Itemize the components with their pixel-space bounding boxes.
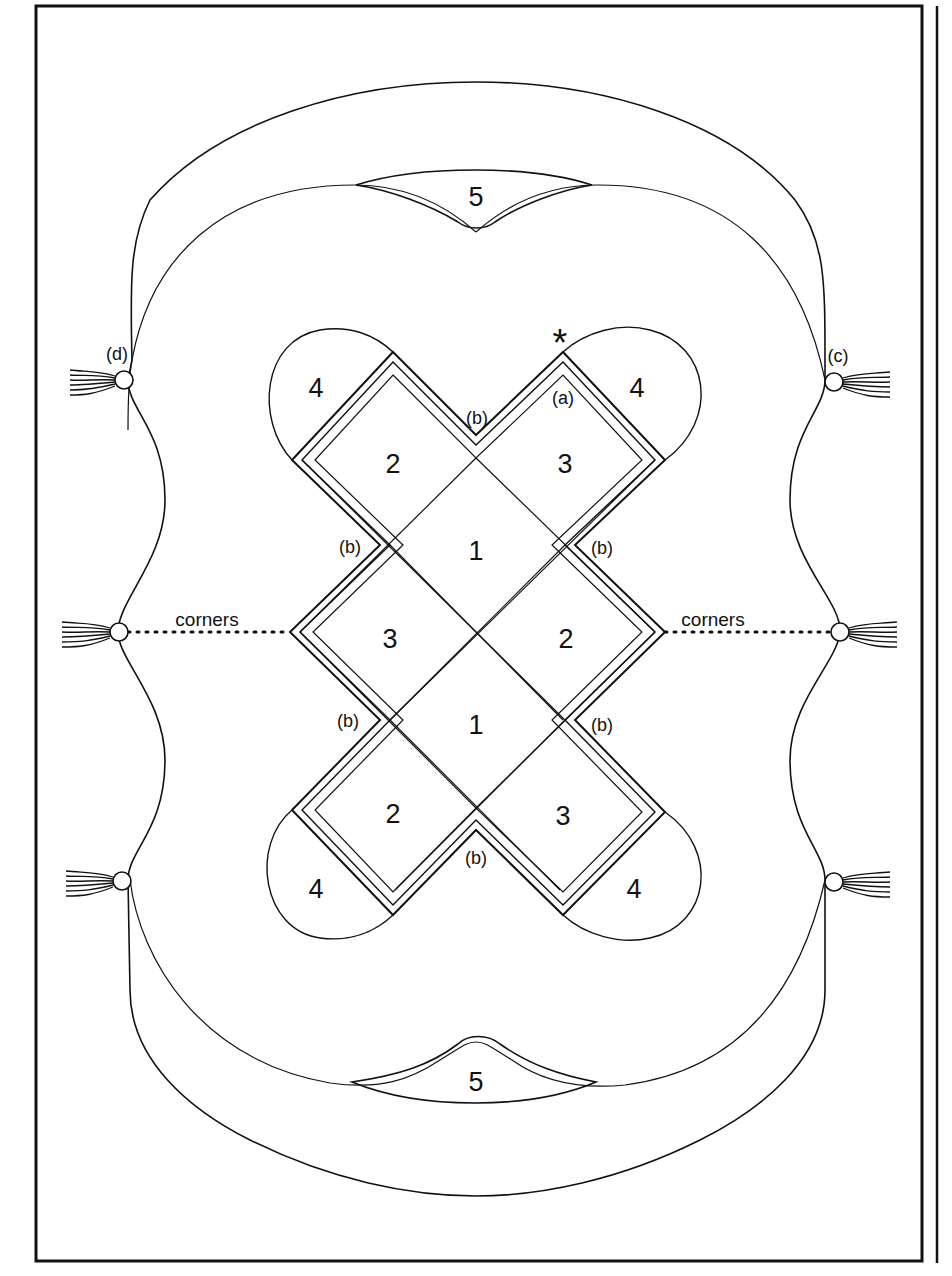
square-label: 2 bbox=[558, 624, 573, 654]
lobe-label: 4 bbox=[629, 373, 644, 403]
panel-label: 5 bbox=[468, 1067, 483, 1097]
tassel-right-middle bbox=[831, 622, 897, 647]
tassel-right-bottom bbox=[825, 872, 890, 897]
square-label: 3 bbox=[555, 801, 570, 831]
tassel-right-top bbox=[825, 372, 890, 397]
lobe-label: 4 bbox=[308, 373, 323, 403]
outer-outline bbox=[118, 82, 840, 1196]
panel-label: 5 bbox=[468, 182, 483, 212]
square-label: 2 bbox=[385, 449, 400, 479]
annotation-b: (b) bbox=[337, 711, 359, 731]
corners-label-right: corners bbox=[681, 609, 744, 630]
x-grid-lines bbox=[300, 458, 655, 890]
square-label: 2 bbox=[385, 799, 400, 829]
lobe-label: 4 bbox=[308, 874, 323, 904]
annotation-b: (b) bbox=[591, 538, 613, 558]
corner-lobe-bottom-left bbox=[267, 810, 393, 939]
square-label: 3 bbox=[557, 449, 572, 479]
tassel-left-middle bbox=[62, 622, 128, 647]
annotation-b: (b) bbox=[591, 715, 613, 735]
square-label: 1 bbox=[468, 536, 483, 566]
annotation-a: (a) bbox=[552, 388, 574, 408]
annotation-b: (b) bbox=[465, 848, 487, 868]
annotation-d: (d) bbox=[106, 344, 128, 364]
lobe-label: 4 bbox=[626, 874, 641, 904]
annotation-b: (b) bbox=[466, 408, 488, 428]
annotation-c: (c) bbox=[828, 346, 849, 366]
tassel-left-bottom bbox=[66, 871, 131, 896]
square-label: 3 bbox=[382, 624, 397, 654]
tassel-left-top bbox=[70, 370, 133, 395]
corner-lobe-top-left bbox=[269, 329, 393, 460]
square-label: 1 bbox=[468, 710, 483, 740]
corners-label-left: corners bbox=[175, 609, 238, 630]
pattern-diagram: 1 1 2 3 3 2 2 3 4 4 4 4 5 5 * (a) (b) (b… bbox=[0, 0, 952, 1276]
annotation-b: (b) bbox=[339, 537, 361, 557]
star-marker: * bbox=[553, 322, 568, 364]
